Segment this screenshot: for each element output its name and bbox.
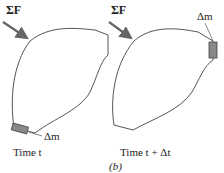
momentum-diagram: ΣF ΣF Δm Δm Time t Time t + Δt (b) bbox=[0, 0, 224, 173]
caption-time-t-plus-dt: Time t + Δt bbox=[120, 147, 170, 158]
caption-time-t: Time t bbox=[13, 147, 42, 158]
force-arrow-time-t bbox=[3, 22, 27, 38]
mass-element-time-t bbox=[11, 123, 28, 134]
mass-label-time-t-plus-dt: Δm bbox=[197, 11, 213, 22]
force-label-time-t-plus-dt: ΣF bbox=[111, 4, 126, 16]
mass-label-time-t: Δm bbox=[44, 131, 60, 142]
force-arrow-time-t-plus-dt bbox=[109, 22, 131, 38]
figure-label: (b) bbox=[109, 161, 122, 172]
body-outline-time-t bbox=[12, 28, 108, 133]
body-outline-time-t-plus-dt bbox=[113, 29, 213, 130]
mass-element-time-t-plus-dt bbox=[209, 42, 217, 58]
force-label-time-t: ΣF bbox=[6, 4, 21, 16]
